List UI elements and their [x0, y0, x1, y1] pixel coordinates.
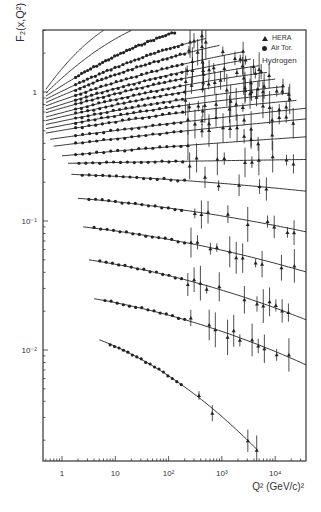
airtor-point — [157, 236, 160, 239]
airtor-point — [149, 270, 152, 273]
hera-point — [189, 316, 193, 320]
airtor-point — [151, 132, 154, 135]
airtor-point — [113, 66, 116, 69]
airtor-point — [118, 230, 121, 233]
airtor-point — [77, 74, 80, 77]
airtor-point — [102, 151, 105, 154]
airtor-point — [107, 199, 110, 202]
hera-point — [197, 393, 201, 397]
airtor-point — [113, 54, 116, 57]
airtor-point — [125, 230, 128, 233]
airtor-point — [113, 345, 116, 348]
airtor-point — [101, 198, 104, 201]
airtor-point — [113, 115, 116, 118]
airtor-point — [178, 84, 181, 87]
airtor-point — [127, 83, 130, 86]
airtor-point — [122, 71, 125, 74]
hera-point — [234, 102, 238, 106]
airtor-point — [123, 264, 126, 267]
airtor-point — [117, 263, 120, 266]
airtor-point — [74, 122, 77, 125]
airtor-point — [172, 145, 175, 148]
airtor-point — [135, 65, 138, 68]
airtor-point — [147, 204, 150, 207]
airtor-point — [99, 112, 102, 115]
airtor-point — [130, 127, 133, 130]
fit-curve — [46, 31, 104, 90]
airtor-point — [173, 31, 176, 34]
airtor-point — [116, 302, 119, 305]
airtor-point — [144, 147, 147, 150]
hera-point — [206, 210, 210, 214]
airtor-point — [86, 109, 89, 112]
hera-point — [192, 39, 196, 43]
airtor-point — [168, 112, 171, 115]
airtor-point — [160, 67, 163, 70]
airtor-point — [87, 83, 90, 86]
hera-point — [266, 220, 270, 224]
airtor-point — [158, 36, 161, 39]
airtor-point — [164, 106, 167, 109]
hera-point — [257, 68, 261, 72]
airtor-point — [115, 80, 118, 83]
airtor-point — [105, 161, 108, 164]
airtor-point — [97, 101, 100, 104]
airtor-point — [129, 60, 132, 63]
airtor-point — [147, 161, 150, 164]
airtor-point — [83, 85, 86, 88]
airtor-point — [141, 117, 144, 120]
airtor-point — [134, 99, 137, 102]
airtor-point — [74, 141, 77, 144]
airtor-point — [101, 91, 104, 94]
airtor-point — [167, 32, 170, 35]
airtor-point — [126, 161, 129, 164]
airtor-point — [141, 56, 144, 59]
airtor-point — [116, 53, 119, 56]
airtor-point — [172, 122, 175, 125]
airtor-point — [142, 268, 145, 271]
airtor-point — [126, 112, 129, 115]
airtor-point — [140, 73, 143, 76]
x-tick-label: 10⁴ — [269, 469, 282, 478]
airtor-point — [149, 103, 152, 106]
airtor-point — [122, 102, 125, 105]
airtor-point — [124, 107, 127, 110]
airtor-point — [106, 116, 109, 119]
airtor-point — [126, 69, 129, 72]
airtor-point — [146, 85, 149, 88]
airtor-point — [165, 131, 168, 134]
airtor-point — [130, 148, 133, 151]
airtor-point — [181, 43, 184, 46]
f2-structure-function-plot: 11010²10³10⁴110⁻¹10⁻²Q² (GeV/c)² — [0, 0, 321, 512]
airtor-point — [95, 65, 98, 68]
fit-curve — [46, 45, 220, 102]
airtor-point — [110, 299, 113, 302]
airtor-point — [128, 48, 131, 51]
x-tick-label: 10² — [163, 469, 175, 478]
airtor-point — [137, 147, 140, 150]
hera-point — [285, 230, 289, 234]
airtor-point — [85, 95, 88, 98]
legend-entry-airtor: Air Tor. — [262, 43, 297, 53]
airtor-point — [134, 116, 137, 119]
hera-point — [225, 88, 229, 92]
airtor-point — [94, 87, 97, 90]
airtor-point — [146, 308, 149, 311]
airtor-point — [161, 58, 164, 61]
hera-point — [207, 82, 211, 86]
fit-curve — [78, 198, 307, 232]
airtor-point — [158, 145, 161, 148]
airtor-point — [137, 43, 140, 46]
airtor-point — [174, 276, 177, 279]
airtor-point — [179, 121, 182, 124]
hera-point — [203, 175, 207, 179]
airtor-point — [102, 71, 105, 74]
airtor-point — [99, 228, 102, 231]
hera-point — [192, 278, 196, 282]
airtor-point — [77, 162, 80, 165]
airtor-point — [87, 124, 90, 127]
airtor-point — [115, 174, 118, 177]
airtor-point — [132, 111, 135, 114]
airtor-point — [183, 241, 186, 244]
airtor-point — [153, 96, 156, 99]
